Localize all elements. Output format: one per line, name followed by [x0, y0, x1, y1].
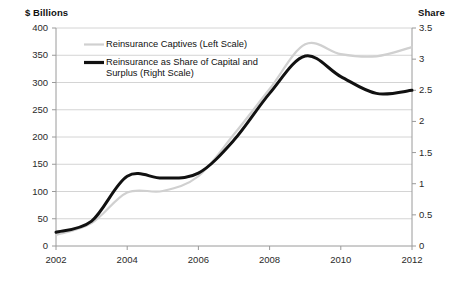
- left-tick-400: 400: [14, 22, 48, 33]
- left-tick-350: 350: [14, 49, 48, 60]
- chart-container: $ Billions Share Reinsurance Captives (L…: [0, 0, 462, 281]
- left-tick-250: 250: [14, 104, 48, 115]
- right-tick-0.5: 0.5: [419, 209, 453, 220]
- right-tick-2.5: 2.5: [419, 84, 453, 95]
- x-tick-2010: 2010: [321, 254, 361, 265]
- left-tick-100: 100: [14, 186, 48, 197]
- x-tick-2006: 2006: [178, 254, 218, 265]
- left-tick-300: 300: [14, 77, 48, 88]
- right-tick-3: 3: [419, 53, 453, 64]
- x-tick-2008: 2008: [250, 254, 290, 265]
- left-tick-50: 50: [14, 213, 48, 224]
- x-tick-2012: 2012: [392, 254, 432, 265]
- right-tick-0: 0: [419, 240, 453, 251]
- right-tick-2: 2: [419, 115, 453, 126]
- right-tick-1.5: 1.5: [419, 147, 453, 158]
- legend-label-share-line1: Reinsurance as Share of Capital and: [106, 57, 258, 69]
- right-tick-3.5: 3.5: [419, 22, 453, 33]
- right-tick-1: 1: [419, 178, 453, 189]
- x-tick-2002: 2002: [36, 254, 76, 265]
- legend-swatches: [84, 45, 104, 63]
- left-tick-200: 200: [14, 131, 48, 142]
- x-tick-2004: 2004: [107, 254, 147, 265]
- legend-label-captives: Reinsurance Captives (Left Scale): [106, 39, 247, 51]
- left-tick-0: 0: [14, 240, 48, 251]
- legend-label-share-line2: Surplus (Right Scale): [106, 68, 194, 80]
- left-tick-150: 150: [14, 158, 48, 169]
